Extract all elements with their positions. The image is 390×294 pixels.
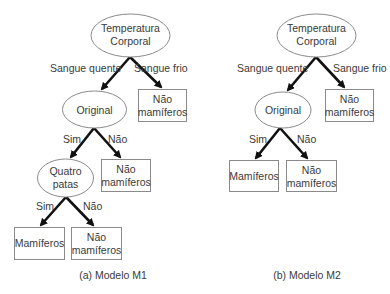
m1-four-legs-line1: Quatro [49, 165, 81, 177]
m1-original-yes-label: Sim [63, 133, 81, 145]
m1-four-legs-node: Quatro patas [38, 159, 94, 197]
m1-edge-warm-label: Sangue quente [50, 62, 121, 74]
m1-original-label: Original [76, 104, 112, 116]
m2-root-node: Temperatura Corporal [277, 14, 356, 57]
m1-original-no-leaf-line1: Não [116, 163, 135, 175]
decision-tree-diagram: Temperatura Corporal Sangue quente Sangu… [0, 0, 390, 294]
m1-four-legs-no-leaf-line1: Não [87, 231, 106, 243]
m2-cold-leaf-node: Não mamíferos [325, 90, 375, 122]
m1-original-no-leaf-node: Não mamíferos [101, 160, 151, 192]
m1-root-line1: Temperatura [101, 22, 160, 34]
m1-original-no-leaf-line2: mamíferos [101, 176, 151, 188]
model-m1-tree: Temperatura Corporal Sangue quente Sangu… [15, 14, 188, 281]
m2-original-yes-leaf-label: Mamíferos [229, 170, 279, 182]
m2-cold-leaf-line1: Não [340, 93, 359, 105]
m1-root-line2: Corporal [110, 35, 150, 47]
m1-four-legs-yes-label: Sim [36, 200, 54, 212]
m2-cold-leaf-line2: mamíferos [325, 106, 375, 118]
m2-original-yes-leaf-node: Mamíferos [229, 161, 279, 192]
m1-four-legs-no-label: Não [83, 200, 102, 212]
m2-original-yes-label: Sim [249, 133, 267, 145]
m1-cold-leaf-line2: mamíferos [138, 106, 188, 118]
m1-four-legs-yes-leaf-label: Mamíferos [15, 237, 65, 249]
m2-original-no-leaf-node: Não mamíferos [287, 161, 337, 192]
m2-root-line2: Corporal [296, 35, 336, 47]
m1-four-legs-yes-leaf-node: Mamíferos [15, 228, 65, 260]
m2-original-no-leaf-line1: Não [302, 164, 321, 176]
m2-original-no-leaf-line2: mamíferos [287, 177, 337, 189]
m2-edge-cold-label: Sangue frio [333, 62, 387, 74]
model-m2-tree: Temperatura Corporal Sangue quente Sangu… [229, 14, 387, 281]
m1-original-node: Original [63, 91, 127, 128]
m1-four-legs-no-leaf-line2: mamíferos [72, 244, 122, 256]
m1-caption: (a) Modelo M1 [79, 269, 147, 281]
m1-root-node: Temperatura Corporal [91, 14, 170, 57]
m1-four-legs-no-leaf-node: Não mamíferos [72, 228, 122, 260]
m2-edge-warm-label: Sangue quente [237, 62, 308, 74]
m2-root-line1: Temperatura [287, 22, 346, 34]
m1-edge-cold-label: Sangue frio [134, 62, 188, 74]
m2-caption: (b) Modelo M2 [273, 269, 341, 281]
m1-original-no-label: Não [108, 133, 127, 145]
m2-original-label: Original [265, 104, 301, 116]
m1-cold-leaf-line1: Não [153, 93, 172, 105]
m1-cold-leaf-node: Não mamíferos [138, 90, 188, 122]
m2-original-no-label: Não [297, 133, 316, 145]
m2-original-node: Original [255, 92, 311, 128]
m1-four-legs-line2: patas [53, 178, 79, 190]
